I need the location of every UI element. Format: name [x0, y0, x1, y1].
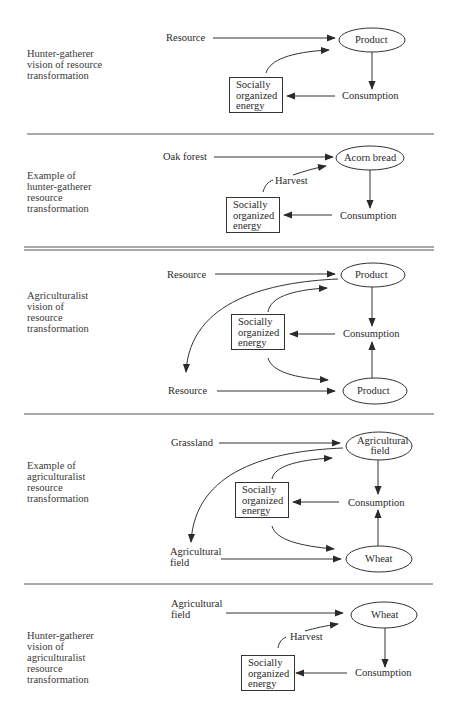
panel-1-side-label: Hunter-gatherer vision of resource trans…: [27, 48, 137, 81]
input-line: field: [171, 609, 222, 620]
panel-5-side-label: Hunter-gatherer vision of agriculturalis…: [27, 630, 137, 685]
energy-box-text: Socially organized energy: [238, 317, 279, 349]
consumption-label: Consumption: [343, 328, 400, 339]
agricultural-field-top-label: Agricultural field: [357, 436, 403, 456]
energy-box-text: Socially organized energy: [233, 200, 274, 232]
side-label-line: agriculturalist: [27, 652, 137, 663]
side-label-line: transformation: [27, 674, 137, 685]
side-label-line: hunter-gatherer: [27, 181, 137, 192]
resource-top-label: Resource: [167, 269, 206, 280]
consumption-label: Consumption: [340, 210, 397, 221]
wheat-bottom-label: Wheat: [365, 553, 392, 564]
energy-line: energy: [233, 221, 274, 232]
panel-4-side-label: Example of agriculturalist resource tran…: [27, 460, 137, 504]
agricultural-field-bottom-label: Agricultural field: [170, 546, 221, 568]
side-label-line: transformation: [27, 203, 137, 214]
energy-line: energy: [242, 506, 283, 517]
input-line: Agricultural: [170, 546, 221, 557]
side-label-line: resource: [27, 663, 137, 674]
energy-line: energy: [236, 101, 277, 112]
agricultural-field-label: Agricultural field: [171, 598, 222, 620]
resource-bottom-label: Resource: [168, 385, 207, 396]
side-label-line: resource: [27, 312, 137, 323]
energy-line: Socially: [242, 485, 283, 496]
consumption-label: Consumption: [342, 90, 399, 101]
energy-line: Socially: [233, 200, 274, 211]
energy-box-text: Socially organized energy: [236, 80, 277, 112]
side-label-line: vision of: [27, 641, 137, 652]
input-line: Agricultural: [171, 598, 222, 609]
energy-box-text: Socially organized energy: [242, 485, 283, 517]
side-label-line: Example of: [27, 170, 137, 181]
consumption-label: Consumption: [348, 497, 405, 508]
ellipse-line: field: [357, 446, 403, 456]
harvest-label: Harvest: [290, 631, 323, 642]
oak-forest-label: Oak forest: [163, 151, 207, 162]
side-label-line: resource: [27, 482, 137, 493]
side-label-line: Example of: [27, 460, 137, 471]
diagram-canvas: [0, 0, 454, 702]
energy-line: energy: [248, 679, 289, 690]
wheat-label: Wheat: [371, 609, 398, 620]
panel-2-side-label: Example of hunter-gatherer resource tran…: [27, 170, 137, 214]
resource-label: Resource: [166, 32, 205, 43]
energy-box-text: Socially organized energy: [248, 658, 289, 690]
side-label-line: transformation: [27, 493, 137, 504]
product-top-label: Product: [355, 269, 388, 280]
side-label-line: resource: [27, 192, 137, 203]
consumption-label: Consumption: [355, 667, 412, 678]
side-label-line: agriculturalist: [27, 471, 137, 482]
side-label-line: transformation: [27, 70, 137, 81]
side-label-line: Agriculturalist: [27, 290, 137, 301]
side-label-line: Hunter-gatherer: [27, 48, 137, 59]
side-label-line: transformation: [27, 323, 137, 334]
side-label-line: vision of resource: [27, 59, 137, 70]
energy-line: Socially: [238, 317, 279, 328]
energy-line: Socially: [248, 658, 289, 669]
product-label: Product: [355, 34, 388, 45]
side-label-line: vision of: [27, 301, 137, 312]
grassland-label: Grassland: [171, 437, 213, 448]
input-line: field: [170, 557, 221, 568]
energy-line: energy: [238, 338, 279, 349]
panel-3-side-label: Agriculturalist vision of resource trans…: [27, 290, 137, 334]
energy-line: Socially: [236, 80, 277, 91]
side-label-line: Hunter-gatherer: [27, 630, 137, 641]
acorn-bread-label: Acorn bread: [344, 152, 396, 163]
product-bottom-label: Product: [357, 385, 390, 396]
harvest-label: Harvest: [275, 175, 308, 186]
